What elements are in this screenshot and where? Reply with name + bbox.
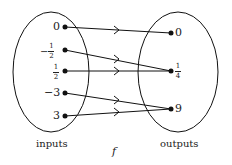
mapping-arrows	[65, 26, 171, 116]
input-dots	[63, 25, 68, 119]
input-label-neg-half: −12	[40, 43, 54, 60]
inputs-caption: inputs	[36, 139, 68, 149]
output-dots	[169, 31, 174, 112]
outputs-caption: outputs	[160, 139, 198, 149]
output-label-9: 9	[175, 103, 182, 114]
input-label-half: 12	[53, 64, 59, 81]
input-label-neg-3: −3	[44, 87, 60, 98]
input-label-0: 0	[53, 21, 60, 32]
output-label-0: 0	[175, 27, 182, 38]
output-label-quarter: 14	[175, 63, 181, 80]
function-label: f	[112, 146, 116, 157]
input-label-3: 3	[53, 110, 60, 121]
inputs-set-ellipse	[13, 12, 89, 132]
